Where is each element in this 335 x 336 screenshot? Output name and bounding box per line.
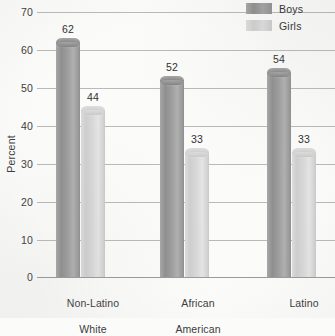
bar-value-label: 52 — [166, 61, 178, 73]
category-line-1: Non-Latino — [67, 297, 119, 309]
bar-cap-highlight — [267, 72, 291, 79]
legend-label-boys: Boys — [279, 3, 303, 15]
bar-body — [160, 80, 184, 277]
category-line-1: African — [181, 297, 214, 309]
legend-swatch-boys-icon — [246, 3, 272, 14]
bar-value-label: 33 — [191, 133, 203, 145]
ytick-label-20: 20 — [0, 196, 33, 208]
legend-swatch-girls-icon — [246, 20, 272, 31]
category-label-latino: Latino — [249, 284, 335, 310]
bar-body — [56, 42, 80, 277]
bar-value-label: 33 — [298, 133, 310, 145]
legend-item-girls: Girls — [246, 19, 303, 32]
category-line-2: White — [79, 323, 106, 335]
category-line-2: American — [175, 323, 220, 335]
ytick-label-70: 70 — [0, 6, 33, 18]
bar-value-label: 54 — [273, 53, 285, 65]
bar-body — [185, 152, 209, 277]
axis-baseline — [37, 277, 335, 278]
bar-boys-latino: 54 — [267, 72, 291, 277]
bar-body — [267, 72, 291, 277]
bar-cap-highlight — [56, 42, 80, 49]
bar-girls-non-latino-white: 44 — [81, 110, 105, 277]
bar-girls-african-american: 33 — [185, 152, 209, 277]
bar-cap-highlight — [81, 110, 105, 117]
bar-cap-highlight — [292, 152, 316, 159]
legend-item-boys: Boys — [246, 2, 303, 15]
bar-value-label: 44 — [87, 91, 99, 103]
bar-body — [292, 152, 316, 277]
bar-girls-latino: 33 — [292, 152, 316, 277]
y-axis-title: Percent — [5, 124, 17, 184]
category-label-non-latino-white: Non-Latino White — [38, 284, 148, 336]
ytick-label-10: 10 — [0, 234, 33, 246]
bar-body — [81, 110, 105, 277]
bar-cap-highlight — [160, 80, 184, 87]
bar-value-label: 62 — [62, 23, 74, 35]
bar-cap-highlight — [185, 152, 209, 159]
gridline-60 — [37, 50, 335, 51]
ytick-label-50: 50 — [0, 82, 33, 94]
category-label-african-american: African American — [143, 284, 253, 336]
legend-label-girls: Girls — [279, 20, 302, 32]
category-line-1: Latino — [289, 297, 318, 309]
bar-boys-african-american: 52 — [160, 80, 184, 277]
chart-legend: Boys Girls — [246, 2, 303, 36]
ytick-label-60: 60 — [0, 44, 33, 56]
ytick-label-0: 0 — [0, 271, 33, 283]
bar-boys-non-latino-white: 62 — [56, 42, 80, 277]
